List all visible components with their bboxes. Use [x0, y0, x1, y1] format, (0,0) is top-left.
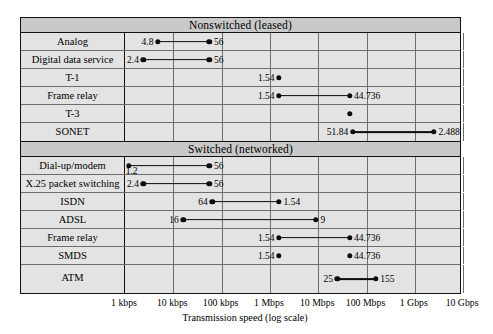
- data-point-label: 16: [169, 215, 179, 225]
- gridline: [173, 105, 174, 122]
- gridline: [367, 33, 368, 50]
- row-label: T-3: [21, 105, 125, 122]
- data-point: [209, 199, 214, 204]
- table-row: Digital data service 2.456: [21, 51, 460, 69]
- data-point: [431, 129, 436, 134]
- data-point: [207, 163, 212, 168]
- data-point: [141, 57, 146, 62]
- gridline: [222, 123, 223, 141]
- gridline: [463, 69, 464, 86]
- data-point-label: 9: [321, 215, 326, 225]
- gridline: [318, 123, 319, 141]
- x-tick-label: 1 Gbps: [400, 296, 428, 309]
- gridline: [173, 193, 174, 210]
- gridline: [415, 193, 416, 210]
- gridline: [415, 247, 416, 264]
- gridline: [318, 193, 319, 210]
- row-plot: 1.5444.736: [125, 247, 460, 264]
- data-point-label: 1.54: [258, 251, 275, 261]
- data-point: [207, 181, 212, 186]
- gridline: [415, 211, 416, 228]
- range-bar: [129, 165, 210, 167]
- row-label: ADSL: [21, 211, 125, 228]
- chart-frame: Nonswitched (leased) Analog 4.856 Digita…: [20, 17, 461, 294]
- data-point: [276, 199, 281, 204]
- data-point: [335, 276, 340, 281]
- gridline: [318, 105, 319, 122]
- data-point: [350, 129, 355, 134]
- row-label: X.25 packet switching: [21, 175, 125, 192]
- data-point-label: 1.54: [258, 91, 275, 101]
- gridline: [270, 175, 271, 192]
- gridline: [367, 211, 368, 228]
- row-label: SMDS: [21, 247, 125, 264]
- data-point-label: 51.84: [327, 127, 348, 137]
- table-row: ADSL 169: [21, 211, 460, 229]
- gridline: [318, 247, 319, 264]
- range-bar: [143, 183, 209, 185]
- x-tick-label: 10 Mbps: [300, 296, 335, 309]
- data-point-label: 44.736: [354, 91, 380, 101]
- row-plot: 51.842.488: [125, 123, 460, 141]
- table-row: Analog 4.856: [21, 33, 460, 51]
- data-point-label: 56: [214, 161, 224, 171]
- row-plot: 1.5444.736: [125, 87, 460, 104]
- gridline: [415, 33, 416, 50]
- data-point-label: 4.8: [142, 37, 154, 47]
- x-tick-label: 10 Gbps: [446, 296, 479, 309]
- x-tick-label: 10 kbps: [157, 296, 188, 309]
- gridline: [463, 229, 464, 246]
- data-point: [276, 253, 281, 258]
- data-point-label: 1.54: [258, 73, 275, 83]
- data-point-label: 2.4: [127, 179, 139, 189]
- gridline: [463, 193, 464, 210]
- data-point-label: 2.4: [127, 55, 139, 65]
- row-plot: 1.54: [125, 69, 460, 86]
- gridline: [318, 175, 319, 192]
- gridline: [415, 175, 416, 192]
- table-row: T-1 1.54: [21, 69, 460, 87]
- x-tick-label: 100 Mbps: [346, 296, 385, 309]
- row-label: Digital data service: [21, 51, 125, 68]
- gridline: [318, 157, 319, 174]
- gridline: [222, 247, 223, 264]
- data-point: [276, 93, 281, 98]
- gridline: [367, 105, 368, 122]
- gridline: [415, 105, 416, 122]
- gridline: [415, 51, 416, 68]
- table-row: Dial-up/modem 1.256: [21, 157, 460, 175]
- gridline: [367, 51, 368, 68]
- data-point-label: 44.736: [354, 251, 380, 261]
- group-header-switched: Switched (networked): [21, 141, 460, 157]
- data-point: [347, 235, 352, 240]
- range-bar: [183, 219, 316, 221]
- range-bar: [212, 201, 279, 203]
- data-point: [155, 39, 160, 44]
- row-plot: 4.856: [125, 33, 460, 50]
- data-point-label: 56: [214, 55, 224, 65]
- row-plot: 641.54: [125, 193, 460, 210]
- row-label: Dial-up/modem: [21, 157, 125, 174]
- data-point-label: 56: [214, 37, 224, 47]
- gridlines: [125, 247, 460, 264]
- data-point-label: 2.488: [438, 127, 459, 137]
- gridline: [270, 33, 271, 50]
- gridline: [463, 87, 464, 104]
- data-point: [347, 253, 352, 258]
- data-point-label: 155: [380, 274, 394, 284]
- gridline: [415, 265, 416, 293]
- data-point: [141, 181, 146, 186]
- gridline: [415, 69, 416, 86]
- gridline: [318, 51, 319, 68]
- range-bar: [158, 41, 210, 43]
- row-label: T-1: [21, 69, 125, 86]
- gridline: [318, 265, 319, 293]
- row-plot: 2.456: [125, 51, 460, 68]
- data-point-label: 64: [198, 197, 208, 207]
- gridline: [318, 211, 319, 228]
- gridline: [270, 265, 271, 293]
- gridline: [270, 105, 271, 122]
- data-point-label: 25: [323, 274, 333, 284]
- data-point-label: 44.736: [354, 233, 380, 243]
- gridline: [463, 33, 464, 50]
